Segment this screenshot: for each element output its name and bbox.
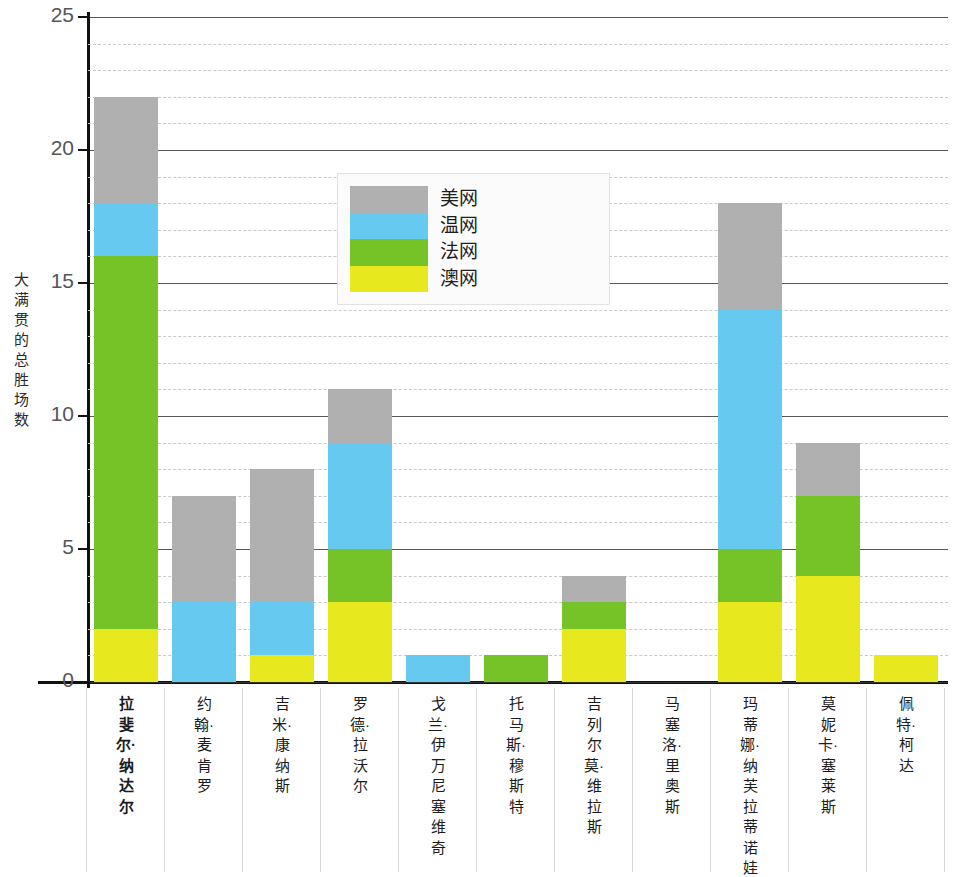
x-label-separator <box>398 688 399 872</box>
x-label-separator <box>164 688 165 872</box>
y-tick-label: 0 <box>30 668 74 692</box>
x-label-separator <box>866 688 867 872</box>
bar-segment-us[interactable] <box>328 389 392 442</box>
bar-segment-wimbledon[interactable] <box>172 602 236 682</box>
x-label-separator <box>944 688 945 872</box>
stacked-bar-chart: 大满贯的总胜场数 0510152025 拉斐尔·纳达尔约翰·麦肯罗吉米·康纳斯罗… <box>0 0 957 877</box>
y-tick-label: 25 <box>30 3 74 27</box>
bar-segment-us[interactable] <box>796 443 860 496</box>
bar[interactable] <box>484 17 548 682</box>
legend-swatch-stack <box>350 186 428 292</box>
x-tick-label: 莫妮卡·塞莱斯 <box>814 694 842 817</box>
x-tick-label: 托马斯·穆斯特 <box>502 694 530 817</box>
bar-segment-french[interactable] <box>796 496 860 576</box>
gridline-major <box>88 682 948 683</box>
bar-segment-french[interactable] <box>562 602 626 629</box>
bar-segment-us[interactable] <box>172 496 236 602</box>
legend-label: 法网 <box>440 239 478 266</box>
x-label-separator <box>788 688 789 872</box>
x-tick-label: 马塞洛·里奥斯 <box>658 694 686 817</box>
bar[interactable] <box>874 17 938 682</box>
x-label-separator <box>554 688 555 872</box>
legend-swatch-australian <box>350 266 428 293</box>
x-tick-label: 玛蒂娜·纳芙拉蒂诺娃 <box>736 694 764 877</box>
x-tick-label: 罗德·拉沃尔 <box>346 694 374 797</box>
bar-segment-wimbledon[interactable] <box>406 655 470 682</box>
bar[interactable] <box>328 17 392 682</box>
x-tick-label: 吉列尔莫·维拉斯 <box>580 694 608 838</box>
x-tick-label: 吉米·康纳斯 <box>268 694 296 797</box>
bar-segment-us[interactable] <box>562 576 626 603</box>
bar-segment-australian[interactable] <box>562 629 626 682</box>
legend-label: 温网 <box>440 213 478 240</box>
x-label-separator <box>710 688 711 872</box>
bar-segment-french[interactable] <box>94 256 158 628</box>
bar-segment-australian[interactable] <box>328 602 392 682</box>
x-tick-label: 拉斐尔·纳达尔 <box>112 694 140 817</box>
x-tick-label: 佩特·柯达 <box>892 694 920 776</box>
bar-segment-us[interactable] <box>250 469 314 602</box>
bar-segment-french[interactable] <box>484 655 548 682</box>
legend-label: 美网 <box>440 186 478 213</box>
x-tick-label: 约翰·麦肯罗 <box>190 694 218 797</box>
bar[interactable] <box>94 17 158 682</box>
bar-segment-wimbledon[interactable] <box>250 602 314 655</box>
bar-segment-wimbledon[interactable] <box>718 310 782 549</box>
x-label-separator <box>242 688 243 872</box>
x-label-separator <box>632 688 633 872</box>
bar-segment-wimbledon[interactable] <box>94 203 158 256</box>
bar[interactable] <box>640 17 704 682</box>
x-tick-label: 戈兰·伊万尼塞维奇 <box>424 694 452 858</box>
y-tick-label: 20 <box>30 136 74 160</box>
x-label-separator <box>476 688 477 872</box>
y-tick-label: 10 <box>30 402 74 426</box>
bar-segment-australian[interactable] <box>718 602 782 682</box>
legend-swatch-french <box>350 239 428 266</box>
bar-segment-french[interactable] <box>328 549 392 602</box>
legend-label: 澳网 <box>440 266 478 293</box>
x-label-separator <box>320 688 321 872</box>
bar-segment-australian[interactable] <box>250 655 314 682</box>
plot-area <box>88 17 948 682</box>
x-label-separator <box>86 688 87 872</box>
bar-segment-wimbledon[interactable] <box>328 443 392 549</box>
bar[interactable] <box>796 17 860 682</box>
bar-segment-australian[interactable] <box>94 629 158 682</box>
y-tick-label: 5 <box>30 535 74 559</box>
bar-segment-australian[interactable] <box>874 655 938 682</box>
bar[interactable] <box>172 17 236 682</box>
bar[interactable] <box>250 17 314 682</box>
bar[interactable] <box>562 17 626 682</box>
legend: 美网温网法网澳网 <box>337 173 610 305</box>
legend-swatch-us <box>350 186 428 213</box>
bar-segment-australian[interactable] <box>796 576 860 682</box>
bar-segment-french[interactable] <box>718 549 782 602</box>
y-tick-label: 15 <box>30 269 74 293</box>
legend-swatch-wimbledon <box>350 213 428 240</box>
bar[interactable] <box>718 17 782 682</box>
bar[interactable] <box>406 17 470 682</box>
bar-segment-us[interactable] <box>94 97 158 203</box>
bar-segment-us[interactable] <box>718 203 782 309</box>
